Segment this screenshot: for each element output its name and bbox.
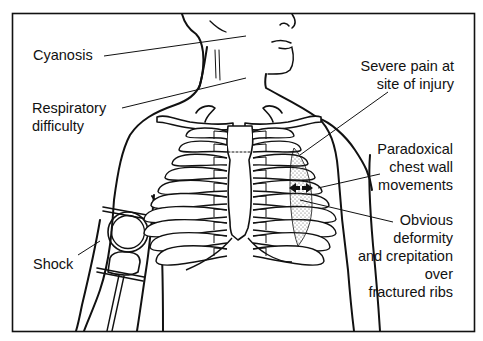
label-severe-pain: Severe pain at site of injury (346, 57, 454, 93)
sternum (227, 126, 253, 240)
arm-outline-outer (76, 220, 100, 331)
label-respiratory-difficulty: Respiratory difficulty (32, 99, 106, 135)
label-paradoxical-movements: Paradoxical chest wall movements (340, 140, 453, 194)
label-obvious-deformity: Obvious deformity and crepitation over f… (330, 211, 453, 301)
ear (210, 21, 226, 32)
label-cyanosis: Cyanosis (33, 47, 93, 63)
leader-cyanosis (104, 36, 246, 56)
leader-shock (78, 241, 100, 255)
clavicle-left (157, 116, 233, 130)
label-shock: Shock (33, 256, 73, 272)
face-profile (268, 14, 295, 74)
chest-injury-diagram: Cyanosis Respiratory difficulty Shock Se… (0, 0, 483, 341)
leader-respiratory (122, 78, 246, 108)
